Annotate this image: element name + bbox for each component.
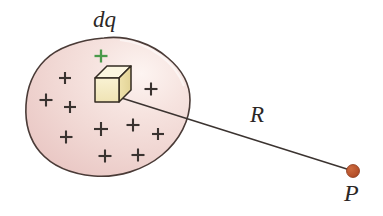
diagram-canvas xyxy=(0,0,383,216)
cube-front-face xyxy=(95,78,119,102)
field-point-marker xyxy=(347,165,360,178)
charge-distribution-diagram: dq R P xyxy=(0,0,383,216)
charge-element-label: dq xyxy=(93,8,116,31)
distance-label: R xyxy=(250,103,264,126)
field-point-label: P xyxy=(344,181,359,205)
